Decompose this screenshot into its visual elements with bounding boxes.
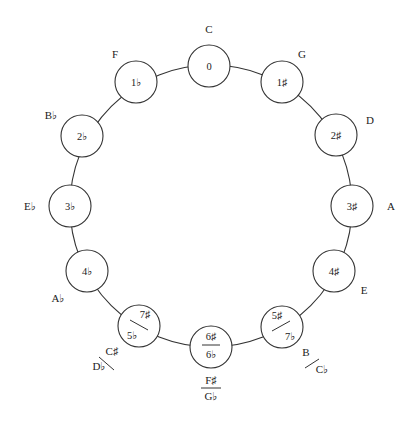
key-bottom-label: D♭ — [92, 360, 105, 372]
signature-label: 2♭ — [77, 131, 87, 142]
signature-top-label: 5♯ — [272, 310, 283, 321]
key-label: E — [361, 284, 368, 296]
signature-bottom-label: 6♭ — [206, 349, 216, 360]
signature-label: 2♯ — [331, 130, 342, 141]
fifths-ring — [70, 65, 352, 347]
signature-label: 4♯ — [329, 266, 340, 277]
signature-bottom-label: 7♭ — [285, 331, 295, 342]
signature-label: 3♯ — [347, 201, 358, 212]
signature-bottom-label: 5♭ — [127, 330, 137, 341]
node-a: 3♯ A — [331, 185, 395, 227]
key-top-label: C♯ — [106, 345, 119, 357]
signature-label: 3♭ — [65, 201, 75, 212]
key-top-label: B — [302, 346, 309, 358]
node-c: 0 C — [188, 23, 230, 87]
key-label: F — [112, 48, 118, 60]
node-g: 1♯ G — [261, 48, 306, 103]
key-label: G — [298, 48, 306, 60]
signature-label: 0 — [206, 61, 211, 72]
key-label: B♭ — [45, 109, 58, 121]
node-bflat: 2♭ B♭ — [45, 109, 103, 157]
key-top-label: F♯ — [205, 374, 217, 386]
key-label: C — [205, 23, 212, 35]
key-label: A — [387, 200, 395, 212]
node-csharp-dflat: 7♯ 5♭ C♯ D♭ — [92, 305, 160, 372]
key-bottom-label: G♭ — [204, 390, 217, 402]
node-b-cflat: 5♯ 7♭ B C♭ — [261, 306, 328, 375]
circle-of-fifths-diagram: 0 C 1♯ G 2♯ D 3♯ A 4♯ E 5♯ 7♭ B C♭ 6♯ — [0, 0, 415, 423]
key-bottom-label: C♭ — [316, 363, 329, 375]
node-eflat: 3♭ E♭ — [24, 185, 91, 227]
signature-label: 1♭ — [131, 77, 141, 88]
signature-label: 4♭ — [82, 266, 92, 277]
node-d: 2♯ D — [315, 114, 374, 156]
node-f: 1♭ F — [112, 48, 157, 103]
signature-top-label: 6♯ — [206, 331, 217, 342]
signature-label: 1♯ — [277, 77, 288, 88]
node-aflat: 4♭ A♭ — [51, 250, 108, 304]
key-label: E♭ — [24, 200, 36, 212]
node-e: 4♯ E — [313, 250, 368, 296]
key-label: D — [366, 114, 374, 126]
node-fsharp-gflat: 6♯ 6♭ F♯ G♭ — [190, 326, 232, 402]
key-label: A♭ — [51, 292, 64, 304]
signature-top-label: 7♯ — [140, 309, 151, 320]
